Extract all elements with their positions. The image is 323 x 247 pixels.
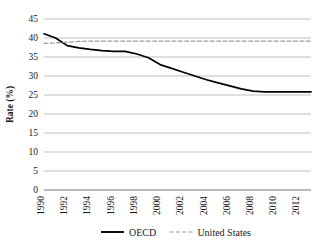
x-tick-label: 2008: [245, 196, 255, 215]
series-line-united-states: [44, 41, 311, 43]
legend-label-united-states: United States: [197, 227, 251, 238]
x-tick-label: 2000: [152, 196, 162, 215]
x-tick-label: 1996: [106, 196, 116, 215]
gridlines: [44, 19, 311, 190]
y-tick-label: 5: [33, 166, 38, 176]
x-tick-label: 2002: [175, 196, 185, 215]
x-tick-label: 1992: [59, 196, 69, 215]
y-tick-label: 15: [29, 128, 39, 138]
x-tick-label: 1994: [82, 196, 92, 215]
y-tick-label: 0: [33, 185, 38, 195]
x-axis-tick-labels: 1990199219941996199820002002200420062008…: [36, 196, 301, 215]
x-tick-label: 2010: [268, 196, 278, 215]
y-tick-label: 40: [29, 33, 39, 43]
x-tick-label: 1998: [129, 196, 139, 215]
series-line-oecd: [44, 34, 311, 92]
x-tick-label: 1990: [36, 196, 46, 215]
x-tick-label: 2006: [222, 196, 232, 215]
y-tick-label: 30: [29, 71, 39, 81]
x-tick-label: 2012: [291, 196, 301, 215]
y-tick-label: 45: [29, 14, 39, 24]
y-tick-label: 35: [29, 52, 39, 62]
y-tick-label: 25: [29, 90, 39, 100]
x-tick-label: 2004: [199, 196, 209, 215]
y-axis-tick-labels: 051015202530354045: [29, 14, 39, 195]
y-tick-label: 20: [29, 109, 39, 119]
chart-container: 051015202530354045 199019921994199619982…: [0, 0, 323, 247]
data-series-layer: [44, 34, 311, 92]
line-chart: 051015202530354045 199019921994199619982…: [0, 0, 323, 247]
legend-label-oecd: OECD: [129, 227, 156, 238]
chart-legend: OECDUnited States: [101, 227, 251, 238]
y-axis-title: Rate (%): [5, 86, 16, 123]
y-tick-label: 10: [29, 147, 39, 157]
